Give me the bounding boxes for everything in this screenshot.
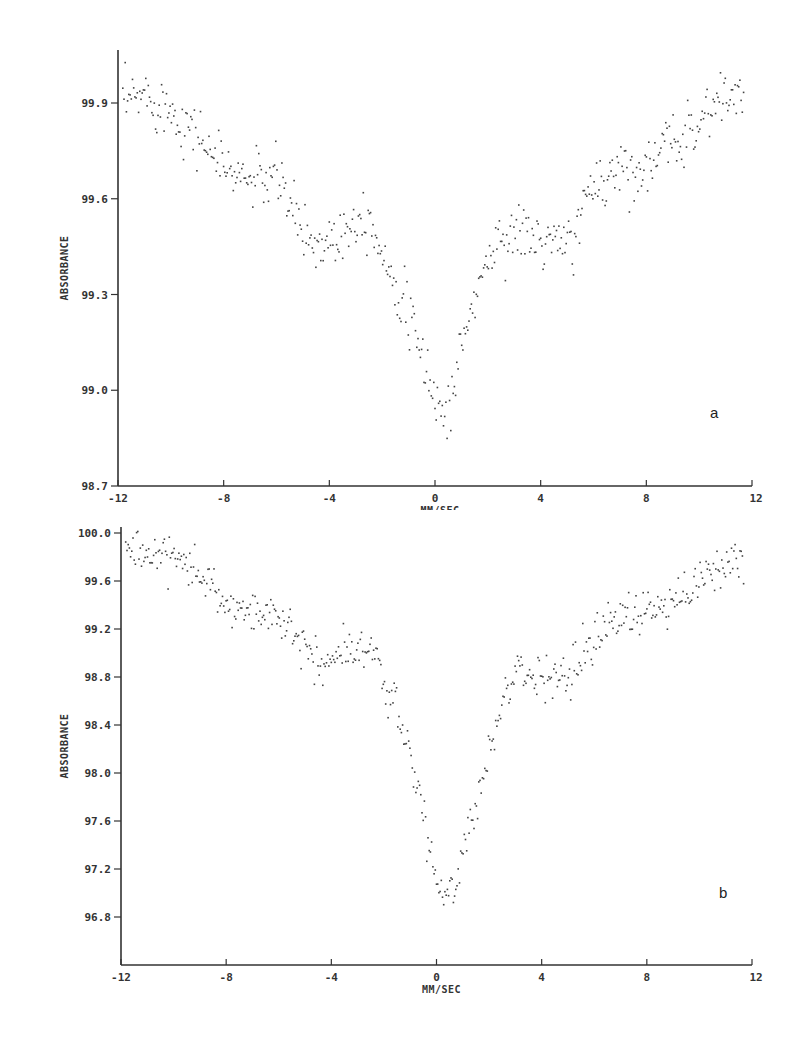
- y-axis-title: ABSORBANCE: [59, 713, 70, 778]
- x-axis-title: MM/SEC: [422, 984, 461, 995]
- x-tick-label: 8: [644, 971, 651, 984]
- y-tick-label: 97.6: [85, 815, 112, 828]
- data-points: [125, 531, 744, 906]
- x-tick-label: 4: [538, 971, 545, 984]
- x-tick-label: -8: [220, 971, 233, 984]
- x-tick-label: -12: [111, 971, 131, 984]
- x-tick-label: 0: [433, 971, 440, 984]
- y-tick-label: 100.0: [78, 527, 111, 540]
- y-tick-label: 99.6: [85, 575, 112, 588]
- y-tick-label: 98.4: [85, 719, 112, 732]
- mossbauer-plot-b: -12-8-404812100.099.699.298.898.498.097.…: [0, 0, 802, 1058]
- y-tick-label: 99.2: [85, 623, 112, 636]
- x-tick-label: 12: [749, 971, 762, 984]
- plot-b: -12-8-404812100.099.699.298.898.498.097.…: [59, 527, 763, 995]
- y-tick-label: 97.2: [85, 863, 112, 876]
- panel-label: b: [719, 884, 727, 901]
- y-tick-label: 96.8: [85, 911, 112, 924]
- y-tick-label: 98.8: [85, 671, 112, 684]
- x-tick-label: -4: [325, 971, 339, 984]
- y-tick-label: 98.0: [85, 767, 112, 780]
